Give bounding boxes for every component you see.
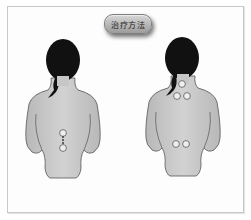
acupoint-lower-back-right — [183, 141, 190, 148]
acupoint-upper-back-left — [174, 93, 181, 100]
title-badge: 治疗方法 — [104, 14, 152, 34]
acupoint-upper-back-right — [184, 93, 191, 100]
left-figure — [18, 32, 108, 182]
acupoint-lower-back-upper — [60, 130, 67, 137]
title-label: 治疗方法 — [111, 19, 145, 30]
acupoint-neck — [179, 81, 186, 88]
acupoint-lower-back-lower — [60, 145, 67, 152]
acupoint-lower-back-left — [173, 141, 180, 148]
right-figure — [134, 28, 224, 182]
